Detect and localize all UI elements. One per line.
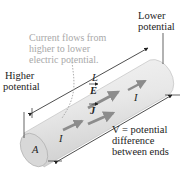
current-density-label: J (90, 105, 95, 116)
area-label: A (32, 144, 38, 155)
higher-potential-label-1: Higher (5, 70, 34, 81)
lower-potential-label-2: potential (138, 21, 175, 32)
length-label: L (92, 72, 98, 83)
current-flow-note-line2: higher to lower (29, 43, 90, 54)
lower-potential-label-1: Lower (138, 10, 165, 21)
voltage-label-3: between ends (112, 146, 169, 157)
current-label-left: I (59, 133, 63, 144)
field-label: E (90, 85, 97, 96)
higher-potential-label-2: potential (3, 81, 40, 92)
voltage-label-1: V = potential (112, 124, 167, 135)
voltage-label-2: difference (112, 135, 154, 146)
current-flow-note-line3: electric potential. (29, 54, 98, 65)
conductor-diagram: Current flows from higher to lower elect… (0, 0, 186, 177)
current-label-right: I (134, 92, 138, 103)
current-flow-note-line1: Current flows from (29, 32, 106, 43)
